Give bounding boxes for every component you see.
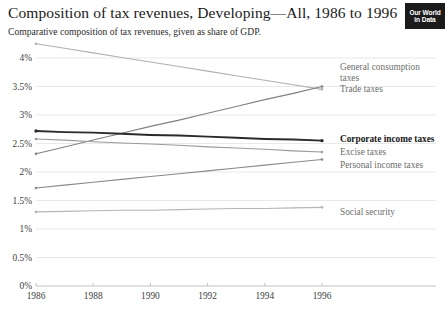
series-labels: General consumptiontaxesTrade taxesCorpo… xyxy=(340,62,435,217)
series-endpoint-marker xyxy=(35,138,38,141)
series-endpoint-marker xyxy=(320,139,323,142)
x-axis-tick-label: 1988 xyxy=(84,291,103,301)
series-label[interactable]: Excise taxes xyxy=(340,147,387,157)
y-axis-tick-label: 2.5% xyxy=(12,139,32,149)
line-chart-svg: 0%0.5%1%1.5%2%2.5%3%3.5%4% 1986198819901… xyxy=(0,0,448,314)
series-endpoint-marker xyxy=(321,158,324,161)
series-line[interactable] xyxy=(36,159,322,188)
x-axis-tick-label: 1986 xyxy=(27,291,46,301)
series-endpoint-marker xyxy=(321,206,324,209)
x-axis-tick-label: 1992 xyxy=(198,291,217,301)
y-axis-tick-label: 3.5% xyxy=(12,82,32,92)
x-axis xyxy=(36,283,436,286)
series-endpoint-marker xyxy=(321,85,324,88)
series-label[interactable]: Personal income taxes xyxy=(340,160,424,170)
series-label[interactable]: Trade taxes xyxy=(340,84,383,94)
y-axis-tick-label: 0% xyxy=(20,281,33,291)
series-label[interactable]: Corporate income taxes xyxy=(340,134,435,144)
chart-subtitle: Comparative composition of tax revenues,… xyxy=(8,26,261,37)
series-line[interactable] xyxy=(36,207,322,212)
series-label[interactable]: General consumption xyxy=(340,62,420,72)
y-axis-tick-label: 1% xyxy=(20,224,33,234)
x-axis-tick-label: 1990 xyxy=(141,291,160,301)
series-line[interactable] xyxy=(36,131,322,141)
y-axis-tick-label: 3% xyxy=(20,110,33,120)
logo-line-1: Our World xyxy=(409,9,440,16)
series-endpoint-marker xyxy=(35,152,38,155)
series-label[interactable]: Social security xyxy=(340,207,395,217)
logo-line-2: in Data xyxy=(414,16,435,23)
series-endpoint-marker xyxy=(321,88,324,91)
y-axis-tick-labels: 0%0.5%1%1.5%2%2.5%3%3.5%4% xyxy=(12,53,32,291)
series-endpoint-marker xyxy=(321,151,324,154)
series-line[interactable] xyxy=(36,87,322,154)
y-axis-tick-label: 4% xyxy=(20,53,33,63)
our-world-in-data-logo[interactable]: Our World in Data xyxy=(405,3,445,29)
y-axis-tick-label: 2% xyxy=(20,167,33,177)
series-line[interactable] xyxy=(36,139,322,152)
chart-container: Composition of tax revenues, Developing—… xyxy=(0,0,448,314)
series-endpoint-marker xyxy=(34,129,37,132)
plot-area: 0%0.5%1%1.5%2%2.5%3%3.5%4% 1986198819901… xyxy=(0,0,448,314)
gridlines xyxy=(36,58,436,258)
y-axis-tick-label: 0.5% xyxy=(12,253,32,263)
series-lines xyxy=(34,42,323,213)
series-endpoint-marker xyxy=(35,42,38,45)
series-endpoint-marker xyxy=(35,187,38,190)
series-line[interactable] xyxy=(36,44,322,90)
series-endpoint-marker xyxy=(35,211,38,214)
y-axis-tick-label: 1.5% xyxy=(12,196,32,206)
x-axis-tick-label: 1994 xyxy=(255,291,274,301)
x-axis-tick-labels: 198619881990199219941996 xyxy=(27,291,332,301)
series-label[interactable]: taxes xyxy=(340,73,359,83)
x-axis-tick-label: 1996 xyxy=(313,291,332,301)
page-title: Composition of tax revenues, Developing—… xyxy=(8,4,397,22)
